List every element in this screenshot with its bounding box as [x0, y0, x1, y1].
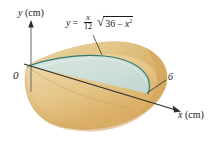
y-axis-label-units: (cm)	[25, 7, 44, 18]
equation-lhs: y	[66, 18, 70, 28]
x-intercept-label: 6	[168, 72, 173, 82]
x-axis-label: x (cm)	[178, 110, 204, 120]
x-axis-label-units: (cm)	[185, 109, 204, 120]
equation-fraction: x 12	[82, 14, 94, 32]
y-axis-label-symbol: y	[18, 7, 22, 18]
radicand-exponent: 2	[129, 18, 132, 24]
solid-of-revolution-figure: y (cm) x (cm) 0 6 y = x 12 √ 36−x2	[0, 0, 217, 141]
equation-equals-sign: =	[72, 18, 78, 28]
radicand-minus-sign: −	[117, 19, 123, 30]
equation-radicand: 36−x2	[103, 16, 133, 29]
radicand-constant: 36	[105, 19, 115, 30]
equation-radical: √ 36−x2	[97, 16, 133, 29]
y-axis-arrowhead	[28, 20, 34, 28]
equation-fraction-denominator: 12	[82, 23, 94, 31]
origin-label: 0	[13, 70, 19, 81]
curve-equation-label: y = x 12 √ 36−x2	[66, 14, 133, 32]
y-axis-label: y (cm)	[18, 8, 44, 18]
x-axis-label-symbol: x	[178, 109, 182, 120]
